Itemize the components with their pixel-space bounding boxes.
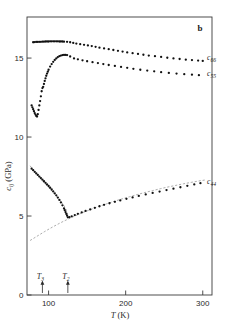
data-point xyxy=(114,65,116,67)
marker-T2: T2 xyxy=(62,272,70,294)
dashed-extrapolation-curves xyxy=(30,166,205,241)
data-point xyxy=(131,196,133,198)
c44-extrapolation xyxy=(30,180,205,241)
data-point xyxy=(137,53,139,55)
data-point xyxy=(178,58,180,60)
data-point xyxy=(87,44,89,46)
data-point xyxy=(51,63,53,65)
transition-markers: T3T2 xyxy=(37,272,70,294)
data-point xyxy=(125,198,127,200)
data-point xyxy=(81,59,83,61)
data-point xyxy=(98,205,100,207)
data-point xyxy=(98,46,100,48)
data-point xyxy=(52,190,54,192)
marker-label-T3: T3 xyxy=(37,272,44,282)
data-point xyxy=(119,199,121,201)
data-point xyxy=(89,208,91,210)
marker-T3: T3 xyxy=(37,272,45,294)
data-point xyxy=(45,75,47,77)
data-point xyxy=(146,69,148,71)
x-tick-label: 200 xyxy=(119,299,133,308)
data-point xyxy=(44,77,46,79)
data-point xyxy=(81,211,83,213)
data-point xyxy=(61,204,63,206)
data-point xyxy=(179,186,181,188)
data-point xyxy=(168,72,170,74)
data-point xyxy=(77,58,79,60)
data-point xyxy=(160,71,162,73)
data-point xyxy=(84,210,86,212)
data-point xyxy=(183,73,185,75)
data-point xyxy=(36,115,38,117)
data-point xyxy=(166,57,168,59)
data-point xyxy=(58,199,60,201)
svg-text:cij (GPa): cij (GPa) xyxy=(3,161,14,190)
marker-label-T2: T2 xyxy=(62,272,69,282)
data-point xyxy=(103,47,105,49)
series-c66 xyxy=(32,40,204,62)
data-point xyxy=(120,66,122,68)
panel-label: b xyxy=(197,23,202,33)
data-point xyxy=(198,74,200,76)
series-c44 xyxy=(30,167,201,218)
data-point xyxy=(69,41,71,43)
data-point xyxy=(175,72,177,74)
data-point xyxy=(43,83,45,85)
data-point xyxy=(40,95,42,97)
data-point xyxy=(49,187,51,189)
data-point xyxy=(91,61,93,63)
data-point xyxy=(185,59,187,61)
y-axis-ticks: 051015 xyxy=(15,54,32,300)
data-point xyxy=(86,60,88,62)
data-point xyxy=(39,100,41,102)
data-point xyxy=(60,201,62,203)
data-point xyxy=(97,62,99,64)
data-point xyxy=(83,44,85,46)
data-point xyxy=(158,190,160,192)
data-point xyxy=(51,188,53,190)
data-point xyxy=(68,216,70,218)
data-point xyxy=(121,50,123,52)
data-point xyxy=(112,49,114,51)
data-point xyxy=(202,60,204,62)
data-point xyxy=(49,65,51,67)
x-axis-title: T (K) xyxy=(111,310,130,320)
data-point xyxy=(79,43,81,45)
data-point xyxy=(154,55,156,57)
data-point xyxy=(94,207,96,209)
elastic-constants-plot: 051015 100200300 T3T2 c66c55c44 cij (GPa… xyxy=(0,0,228,324)
data-point xyxy=(57,196,59,198)
y-axis-title: cij (GPa) xyxy=(3,161,14,190)
data-point xyxy=(63,40,65,42)
data-point xyxy=(74,214,76,216)
data-point xyxy=(145,193,147,195)
data-point xyxy=(172,188,174,190)
data-point xyxy=(132,68,134,70)
y-tick-label: 5 xyxy=(19,212,24,221)
data-point xyxy=(153,70,155,72)
data-point xyxy=(117,50,119,52)
data-point xyxy=(199,182,201,184)
y-tick-label: 15 xyxy=(15,54,24,63)
data-point xyxy=(142,54,144,56)
data-point xyxy=(102,63,104,65)
plot-frame xyxy=(27,17,212,295)
x-tick-label: 300 xyxy=(196,299,210,308)
data-point xyxy=(37,109,39,111)
data-point xyxy=(37,113,39,115)
data-point xyxy=(54,192,56,194)
svg-text:T (K): T (K) xyxy=(111,310,130,320)
data-point xyxy=(108,64,110,66)
data-point xyxy=(38,104,40,106)
data-point xyxy=(197,59,199,61)
data-point xyxy=(131,52,133,54)
data-point xyxy=(94,46,96,48)
data-point xyxy=(193,183,195,185)
data-point xyxy=(186,185,188,187)
data-point xyxy=(108,202,110,204)
data-point xyxy=(191,74,193,76)
data-point xyxy=(172,57,174,59)
y-tick-label: 10 xyxy=(15,133,24,142)
data-point xyxy=(160,56,162,58)
data-point xyxy=(71,215,73,217)
